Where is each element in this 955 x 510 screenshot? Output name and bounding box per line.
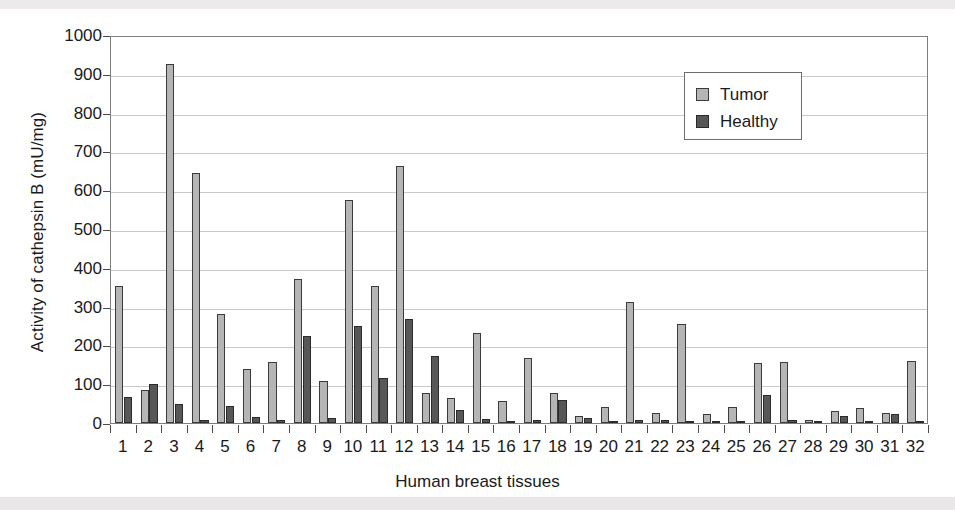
y-axis-tick-mark	[103, 269, 110, 270]
y-axis-tick-label: 300	[40, 299, 102, 316]
bar-tumor	[728, 407, 736, 423]
bar-tumor	[473, 333, 481, 423]
bar-tumor	[115, 286, 123, 423]
bar-tumor	[268, 362, 276, 423]
x-axis-tick-mark	[596, 425, 597, 433]
bar-group	[447, 37, 464, 423]
bar-healthy	[431, 356, 439, 423]
bar-tumor	[575, 416, 583, 423]
bar-group	[498, 37, 515, 423]
bar-healthy	[124, 397, 132, 423]
bar-group	[626, 37, 643, 423]
y-axis-tick-label: 800	[40, 105, 102, 122]
legend-swatch-tumor-icon	[696, 88, 709, 101]
bar-group	[524, 37, 541, 423]
x-axis-tick-mark	[698, 425, 699, 433]
bar-series-container	[111, 37, 927, 423]
bar-healthy	[405, 319, 413, 423]
y-axis-tick-mark	[103, 385, 110, 386]
bar-chart-figure: Activity of cathepsin B (mU/mg) 01002003…	[0, 0, 955, 510]
bar-healthy	[712, 421, 720, 423]
y-axis-tick-mark	[103, 152, 110, 153]
bar-group	[345, 37, 362, 423]
bar-healthy	[686, 421, 694, 423]
bar-tumor	[243, 369, 251, 423]
y-axis-tick-mark	[103, 75, 110, 76]
bar-group	[831, 37, 848, 423]
x-axis-tick-mark	[238, 425, 239, 433]
bar-healthy	[865, 421, 873, 423]
bar-group	[473, 37, 490, 423]
x-axis-tick-mark	[391, 425, 392, 433]
bar-healthy	[558, 400, 566, 423]
x-axis-tick-mark	[545, 425, 546, 433]
x-axis-tick-mark	[877, 425, 878, 433]
y-axis-tick-mark	[103, 230, 110, 231]
y-axis-tick-mark	[103, 308, 110, 309]
bar-group	[217, 37, 234, 423]
bar-tumor	[422, 393, 430, 423]
bar-tumor	[371, 286, 379, 423]
legend-swatch-healthy-icon	[696, 115, 709, 128]
bar-healthy	[456, 410, 464, 423]
bar-group	[396, 37, 413, 423]
bar-tumor	[498, 401, 506, 424]
x-axis-tick-mark	[672, 425, 673, 433]
bar-tumor	[192, 173, 200, 423]
bar-group	[907, 37, 924, 423]
x-axis-tick-mark	[417, 425, 418, 433]
bar-tumor	[345, 200, 353, 423]
bar-healthy	[635, 420, 643, 423]
bar-group	[294, 37, 311, 423]
bar-healthy	[507, 421, 515, 423]
bar-healthy	[737, 421, 745, 423]
y-axis-tick-label: 100	[40, 376, 102, 393]
bar-tumor	[703, 414, 711, 423]
bar-tumor	[856, 408, 864, 423]
x-axis-tick-mark	[570, 425, 571, 433]
bar-tumor	[754, 363, 762, 423]
bar-group	[243, 37, 260, 423]
bar-healthy	[175, 404, 183, 423]
bar-tumor	[780, 362, 788, 423]
bar-healthy	[277, 420, 285, 423]
bar-group	[192, 37, 209, 423]
bar-tumor	[882, 413, 890, 423]
bar-group	[115, 37, 132, 423]
y-axis-tick-label: 900	[40, 66, 102, 83]
bar-group	[856, 37, 873, 423]
x-axis-tick-label: 32	[895, 437, 935, 457]
bar-healthy	[763, 395, 771, 423]
x-axis-tick-mark	[647, 425, 648, 433]
bar-group	[652, 37, 669, 423]
bar-tumor	[217, 314, 225, 423]
y-axis-tick-label: 400	[40, 260, 102, 277]
bar-healthy	[891, 414, 899, 423]
x-axis-tick-mark	[136, 425, 137, 433]
bar-group	[422, 37, 439, 423]
bar-healthy	[584, 418, 592, 423]
bar-healthy	[226, 406, 234, 423]
x-axis-tick-mark	[519, 425, 520, 433]
bar-group	[575, 37, 592, 423]
y-axis-tick-mark	[103, 36, 110, 37]
bar-group	[805, 37, 822, 423]
bar-healthy	[354, 326, 362, 423]
bar-group	[141, 37, 158, 423]
x-axis-title: Human breast tissues	[0, 472, 955, 492]
bar-healthy	[379, 378, 387, 423]
bar-tumor	[831, 411, 839, 423]
y-axis-tick-mark	[103, 346, 110, 347]
bar-tumor	[550, 393, 558, 423]
bar-tumor	[166, 64, 174, 423]
bar-healthy	[149, 384, 157, 423]
y-axis-tick-label: 0	[40, 415, 102, 432]
x-axis-tick-mark	[724, 425, 725, 433]
x-axis-tick-mark	[621, 425, 622, 433]
bar-tumor	[601, 407, 609, 423]
bar-group	[550, 37, 567, 423]
bar-healthy	[328, 418, 336, 423]
x-axis-tick-mark	[775, 425, 776, 433]
bar-healthy	[533, 420, 541, 423]
plot-area	[110, 36, 928, 424]
